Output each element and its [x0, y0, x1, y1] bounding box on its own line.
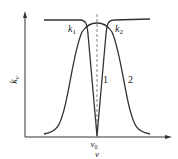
- label-curve-1: 1: [103, 74, 108, 85]
- svg-text:kν: kν: [8, 75, 21, 83]
- y-axis-label: kν: [8, 75, 21, 83]
- label-k2: k2: [115, 23, 123, 36]
- label-k1: k1: [68, 23, 76, 36]
- absorption-coefficient-diagram: k1 k2 1 2 kν ν0 ν: [0, 0, 178, 159]
- x-axis-arrow-icon: [165, 135, 172, 139]
- x-axis-label: ν: [95, 149, 99, 159]
- y-axis-arrow-icon: [23, 11, 27, 18]
- label-curve-2: 2: [128, 74, 133, 85]
